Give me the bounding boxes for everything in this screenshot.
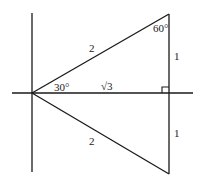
triangle-diagram: 60° 30° 2 2 1 1 √3: [0, 0, 208, 181]
angle-label-60: 60°: [153, 22, 168, 34]
lower-hypotenuse: [32, 93, 169, 174]
angle-label-30: 30°: [54, 81, 69, 93]
side-label-lower-hyp: 2: [89, 135, 95, 147]
right-angle-marker: [162, 87, 169, 93]
side-label-upper-hyp: 2: [89, 42, 95, 54]
side-label-base: √3: [101, 80, 113, 92]
side-label-upper-leg: 1: [174, 50, 180, 62]
side-label-lower-leg: 1: [174, 127, 180, 139]
